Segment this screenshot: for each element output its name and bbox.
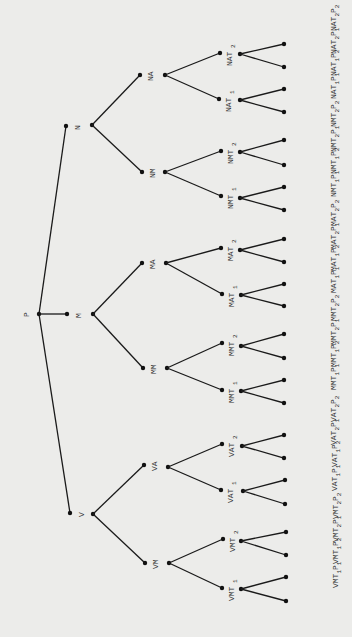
edge-VMT1-leaf [241, 577, 286, 589]
leaf-node-dot [282, 433, 286, 437]
tree-node-dot [220, 292, 224, 296]
node-label-nat1: NAT 1 [225, 90, 236, 112]
tree-node-dot [64, 124, 68, 128]
leaf-node-dot [282, 304, 286, 308]
node-label-n: N [74, 125, 82, 130]
leaf-node-dot [284, 599, 288, 603]
node-label-mm: MM [150, 364, 158, 374]
node-label-vmt1: VMT 1 [228, 579, 239, 601]
node-label-mat2: MAT 2 [227, 239, 238, 261]
tree-node-dot [221, 537, 225, 541]
tree-node-dot [143, 561, 147, 565]
leaf-node-dot [282, 260, 286, 264]
edge-MAT2-leaf [240, 239, 284, 250]
leaf-node-dot [284, 530, 288, 534]
tree-node-dot [138, 73, 142, 77]
tree-diagram: PNMVNANMMAMMVAVMNAT 2NAT 1NMT 2NMT 1MAT … [0, 0, 352, 637]
leaf-node-dot [282, 332, 286, 336]
edge-M-MM [93, 314, 143, 368]
edge-NA-NAT1 [165, 75, 219, 99]
tree-node-dot [219, 194, 223, 198]
tree-node-dot [141, 366, 145, 370]
edge-MMT2-leaf [241, 334, 284, 346]
leaf-node-dot [282, 401, 286, 405]
node-label-vat2: VAT 2 [228, 435, 239, 457]
edge-MMT2-leaf [241, 346, 284, 358]
edge-VAT1-leaf [243, 491, 285, 504]
leaf-node-dot [283, 478, 287, 482]
leaf-node-dot [282, 110, 286, 114]
edge-MAT1-leaf [241, 295, 284, 306]
leaf-node-dot [282, 237, 286, 241]
node-label-nmt2: NMT 2 [227, 142, 238, 164]
leaf-label-vmt1p1: VMT1P1 [332, 562, 343, 588]
tree-node-dot [220, 388, 224, 392]
edge-MMT1-leaf [241, 380, 284, 391]
edge-MA-MAT1 [166, 263, 222, 294]
edge-VAT2-leaf [242, 435, 284, 446]
edge-NM-NMT2 [165, 151, 221, 172]
node-label-na: NA [147, 71, 155, 81]
edge-VMT1-leaf [241, 589, 286, 601]
edge-VM-VMT2 [169, 539, 223, 563]
node-label-m: M [75, 313, 83, 318]
node-label-p: P [23, 312, 31, 317]
edge-MAT2-leaf [240, 250, 284, 262]
tree-node-dot [220, 586, 224, 590]
edge-VMT2-leaf [241, 532, 286, 541]
node-label-v: V [78, 512, 86, 517]
leaf-node-dot [284, 553, 288, 557]
edge-NAT1-leaf [240, 89, 284, 100]
edge-NAT2-leaf [240, 54, 284, 67]
node-label-mat1: MAT 1 [228, 285, 239, 307]
leaf-label-mmt2p2: MMT2P2 [330, 295, 341, 321]
edge-MA-MAT2 [166, 248, 221, 263]
tree-node-dot [140, 261, 144, 265]
edge-NMT2-leaf [240, 140, 284, 152]
leaf-node-dot [282, 138, 286, 142]
edge-P-V [39, 314, 70, 513]
edge-NAT2-leaf [240, 44, 284, 54]
edge-NMT2-leaf [240, 152, 284, 165]
edge-VMT2-leaf [241, 541, 286, 555]
node-label-nmt1: NMT 1 [227, 187, 238, 209]
leaf-label-vat1p2: VAT1P2 [331, 441, 342, 467]
edge-NMT1-leaf [240, 198, 284, 210]
tree-node-dot [65, 312, 69, 316]
edge-NMT1-leaf [240, 187, 284, 198]
node-label-mmt1: MMT 1 [228, 381, 239, 403]
edge-N-NA [92, 75, 140, 125]
edge-V-VM [93, 514, 145, 563]
edge-VA-VAT1 [168, 467, 221, 490]
leaf-node-dot [282, 356, 286, 360]
leaf-label-vmt1p2: VMT1P2 [332, 538, 343, 564]
tree-node-dot [218, 51, 222, 55]
edge-M-MA [93, 263, 142, 314]
edge-VM-VMT1 [169, 563, 222, 588]
node-label-nm: NM [149, 168, 157, 178]
leaf-label-vat1p1: VAT1P1 [331, 465, 342, 491]
leaf-label-nmt2p2: NMT2P2 [330, 101, 341, 127]
edge-V-VA [93, 465, 144, 514]
tree-edges [0, 0, 352, 637]
edge-MM-MMT1 [167, 368, 222, 390]
leaf-node-dot [282, 456, 286, 460]
node-label-mmt2: MMT 2 [228, 334, 239, 356]
edge-NAT1-leaf [240, 100, 284, 112]
leaf-node-dot [284, 575, 288, 579]
node-label-vm: VM [152, 559, 160, 569]
tree-node-dot [219, 246, 223, 250]
edge-VAT1-leaf [243, 480, 285, 491]
edge-NM-NMT1 [165, 172, 221, 196]
node-label-ma: MA [149, 259, 157, 269]
edge-N-NM [92, 125, 142, 172]
leaf-node-dot [282, 163, 286, 167]
edge-VA-VAT2 [168, 444, 222, 467]
edge-VAT2-leaf [242, 446, 284, 458]
leaf-node-dot [282, 378, 286, 382]
leaf-node-dot [282, 87, 286, 91]
node-label-va: VA [151, 461, 159, 471]
tree-node-dot [217, 97, 221, 101]
node-label-vat1: VAT 1 [227, 481, 238, 503]
node-label-nat2: NAT 2 [226, 44, 237, 66]
